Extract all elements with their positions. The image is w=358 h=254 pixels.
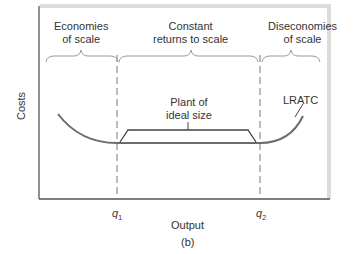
q2-subscript: 2	[262, 214, 266, 221]
region-economies-line2: of scale	[54, 33, 108, 46]
region-economies-line1: Economies	[54, 20, 108, 33]
lratc-label: LRATC	[283, 94, 318, 107]
region-constant-line2: returns to scale	[153, 33, 228, 46]
plant-line1: Plant of	[166, 96, 212, 109]
q2-tick-label: q2	[256, 207, 266, 221]
region-diseconomies-line1: Diseconomies	[268, 20, 337, 33]
region-constant-label: Constant returns to scale	[153, 20, 228, 46]
diseconomies-brace	[262, 50, 320, 62]
plant-ideal-size-bracket	[120, 130, 256, 142]
region-economies-label: Economies of scale	[54, 20, 108, 46]
economies-brace	[46, 50, 118, 62]
q1-tick-label: q1	[112, 207, 122, 221]
region-diseconomies-label: Diseconomies of scale	[268, 20, 337, 46]
plant-line2: ideal size	[166, 109, 212, 122]
panel-label: (b)	[181, 236, 194, 249]
region-constant-line1: Constant	[153, 20, 228, 33]
region-diseconomies-line2: of scale	[268, 33, 337, 46]
x-axis-label: Output	[171, 219, 204, 232]
constant-brace	[119, 50, 258, 62]
y-axis-label: Costs	[15, 92, 27, 120]
plant-ideal-size-label: Plant of ideal size	[166, 96, 212, 122]
q1-subscript: 1	[118, 214, 122, 221]
